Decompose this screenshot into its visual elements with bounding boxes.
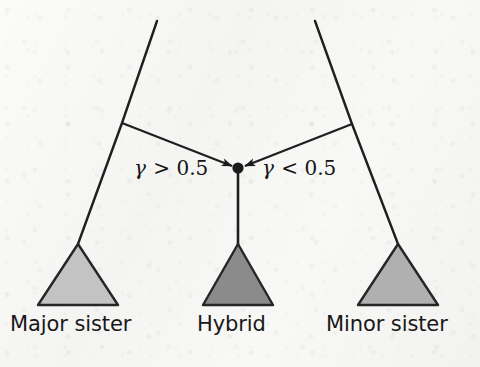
minor-sister-clade-label: Minor sister <box>326 312 448 336</box>
gamma-minor-label: γ < 0.5 <box>262 156 336 180</box>
gamma-minor-relation: < 0.5 <box>275 156 336 180</box>
hybrid-node <box>232 162 243 173</box>
major-sister-clade-triangle <box>38 244 118 305</box>
gamma-major-label: γ > 0.5 <box>134 156 208 180</box>
major-sister-clade-label: Major sister <box>10 312 131 336</box>
gamma-symbol-major: γ <box>134 156 147 180</box>
minor-sister-clade-triangle <box>358 244 438 305</box>
gamma-symbol-minor: γ <box>262 156 275 180</box>
hybrid-clade-label: Hybrid <box>197 312 266 336</box>
gamma-major-relation: > 0.5 <box>147 156 208 180</box>
hybrid-clade-triangle <box>203 244 273 305</box>
hybridization-network-figure: γ > 0.5 γ < 0.5 Major sister Hybrid Mino… <box>0 0 480 367</box>
